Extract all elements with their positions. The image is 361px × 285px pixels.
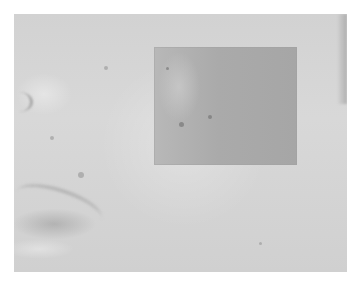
- skin-spot: [104, 66, 108, 70]
- inset-spot: [179, 122, 184, 127]
- skin-spot: [259, 242, 262, 245]
- inset-spot: [166, 67, 169, 70]
- skin-spot: [78, 172, 84, 178]
- edge-shadow: [337, 14, 347, 104]
- magnified-inset: [154, 47, 297, 165]
- inset-spot: [208, 115, 212, 119]
- lip-crease: [14, 176, 107, 235]
- skin-spot: [50, 136, 54, 140]
- nostril-contour: [14, 92, 33, 112]
